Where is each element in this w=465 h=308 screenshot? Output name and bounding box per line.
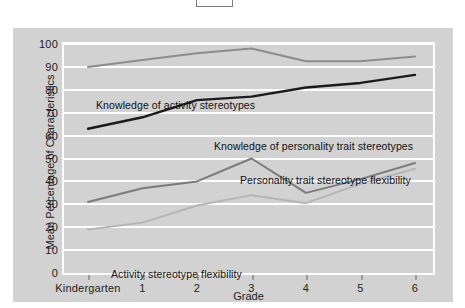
series-label-activity-flexibility: Activity stereotype flexibility <box>111 268 242 280</box>
y-tick-label: 0 <box>52 267 58 279</box>
chart-root: 1009080706050403020100 Kindergarten12345… <box>0 0 465 308</box>
x-tick <box>415 275 417 280</box>
top-artifact-box <box>196 0 233 7</box>
series-lines <box>64 44 433 273</box>
plot-area <box>62 42 435 275</box>
series-label-activity-knowledge: Knowledge of activity stereotypes <box>96 99 255 111</box>
y-tick-label: 100 <box>39 38 58 50</box>
y-axis-title: Mean Percentage of Characteristics <box>44 62 56 262</box>
series-label-personality-flexibility: Personality trait stereotype flexibility <box>240 174 411 186</box>
x-tick <box>306 275 308 280</box>
x-tick <box>361 275 363 280</box>
x-axis-title: Grade <box>62 290 435 302</box>
chart-panel: 1009080706050403020100 Kindergarten12345… <box>13 28 453 302</box>
x-tick <box>88 275 90 280</box>
series-line <box>88 49 415 67</box>
series-label-personality-knowledge: Knowledge of personality trait stereotyp… <box>214 140 413 152</box>
x-tick <box>252 275 254 280</box>
